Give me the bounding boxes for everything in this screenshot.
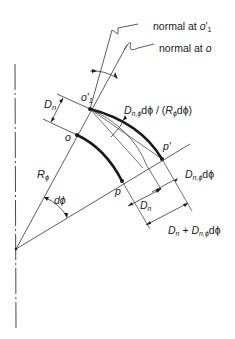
arrowhead [183,203,188,207]
dimension-Dnphi [152,180,174,192]
label-normal-at-o1: normal at o′1 [153,20,212,33]
shell-element-diagram: normal at o′1 normal at o Dn o′1 o Dn,ϕd… [0,0,235,339]
label-Dn-bottom: Dn [140,199,152,212]
label-R-phi: Rϕ [37,168,49,182]
arrowhead [92,69,97,73]
label-p: p [114,185,121,197]
arrowhead [128,202,133,206]
dimension-Dn-total [146,203,188,225]
label-dphi: dϕ [54,194,66,206]
arrowhead [59,98,63,103]
arrowhead [64,213,68,218]
label-p-prime: p′ [162,140,172,152]
arrowhead [51,117,55,122]
label-slope: Dn,ϕdϕ / (Rϕdϕ) [124,104,192,118]
label-Dn-plus: Dn + Dn,ϕdϕ [168,224,221,238]
label-Dn-phi-dphi: Dn,ϕdϕ [185,168,214,182]
normal-line-o1 [90,41,109,109]
arrowhead [114,72,118,79]
point-o [75,133,79,137]
radius-line-p [16,144,190,249]
label-o1-prime: o′1 [81,91,93,104]
axis-of-revolution [15,64,16,330]
arc-o-p [77,135,122,181]
label-normal-at-o: normal at o [159,42,212,54]
extension-line-mid [147,166,161,189]
point-o1-prime [88,107,92,111]
leader-normal-o1 [109,24,138,41]
offset-arc [90,109,147,166]
leader-normal-o [124,43,154,50]
tangent-line-o [43,119,77,135]
label-o: o [65,131,71,143]
radius-line-o [16,45,127,249]
label-Dn-left: Dn [44,98,56,112]
